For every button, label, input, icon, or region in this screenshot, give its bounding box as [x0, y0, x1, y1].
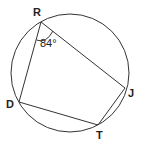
inscribed-quadrilateral-diagram: R J T D 84°: [0, 0, 141, 144]
quadrilateral-RJTD: [19, 22, 125, 125]
circle: [11, 14, 129, 132]
angle-label-R: 84°: [40, 37, 57, 49]
vertex-label-T: T: [96, 129, 103, 141]
vertex-label-J: J: [128, 87, 134, 99]
vertex-label-D: D: [6, 98, 14, 110]
vertex-label-R: R: [33, 6, 41, 18]
